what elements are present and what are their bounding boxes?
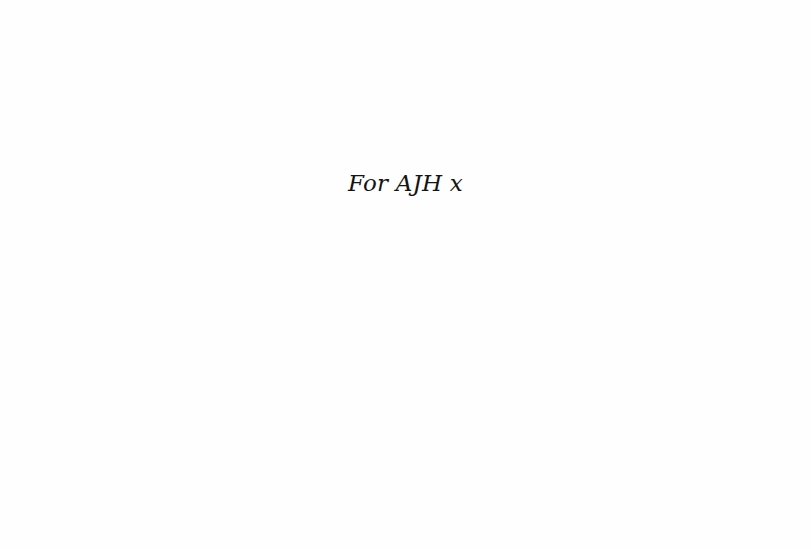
dedication-page: For AJH x	[0, 0, 811, 549]
dedication-text: For AJH x	[0, 168, 811, 198]
